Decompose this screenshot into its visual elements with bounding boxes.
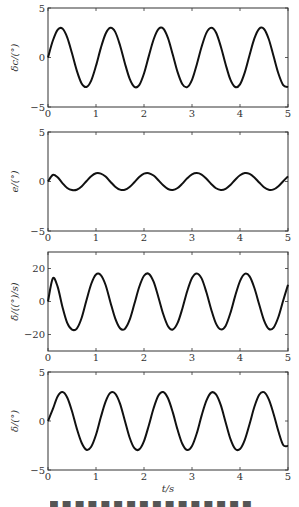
x-axis-label: t/s (162, 483, 175, 494)
x-tick-label: 3 (189, 108, 195, 119)
x-tick-label: 5 (285, 471, 291, 482)
axes-frame (48, 132, 288, 231)
y-axis-label: δ̇/((°)/s) (9, 282, 20, 321)
y-axis-label: δ/(°) (9, 410, 20, 432)
x-tick-label: 4 (237, 471, 243, 482)
x-tick-label: 1 (93, 352, 99, 363)
x-tick-label: 0 (45, 471, 51, 482)
y-tick-label: 0 (39, 296, 45, 307)
y-tick-label: 0 (39, 176, 45, 187)
y-tick-label: 20 (32, 263, 45, 274)
x-tick-label: 5 (285, 232, 291, 243)
y-tick-label: 5 (39, 3, 45, 14)
x-tick-label: 2 (141, 108, 147, 119)
figure: 01234550−5δc/(°)01234550−5e/(°)012345200… (0, 0, 299, 507)
series-line-delta_c (48, 28, 288, 88)
x-tick-label: 4 (237, 232, 243, 243)
axes-frame (48, 372, 288, 470)
x-tick-label: 2 (141, 352, 147, 363)
x-tick-label: 5 (285, 352, 291, 363)
y-tick-label: −5 (30, 226, 45, 237)
y-tick-label: 5 (39, 367, 45, 378)
x-tick-label: 2 (141, 471, 147, 482)
panel-3: 012345200−20δ̇/((°)/s) (9, 252, 291, 363)
x-tick-label: 0 (45, 108, 51, 119)
series-line-delta (48, 392, 288, 450)
x-tick-label: 3 (189, 352, 195, 363)
x-tick-label: 1 (93, 232, 99, 243)
panel-4: 01234550−5δ/(°) (9, 367, 291, 483)
axes-frame (48, 8, 288, 107)
y-tick-label: −5 (30, 465, 45, 476)
x-tick-label: 1 (93, 108, 99, 119)
x-tick-label: 4 (237, 352, 243, 363)
x-tick-label: 5 (285, 108, 291, 119)
x-tick-label: 0 (45, 352, 51, 363)
y-axis-label: δc/(°) (9, 44, 20, 72)
y-tick-label: −20 (24, 329, 45, 340)
axes-frame (48, 252, 288, 351)
panel-2: 01234550−5e/(°) (9, 127, 291, 244)
x-tick-label: 1 (93, 471, 99, 482)
x-tick-label: 4 (237, 108, 243, 119)
series-line-delta_dot (48, 273, 288, 330)
x-tick-label: 3 (189, 471, 195, 482)
series-line-e (48, 173, 288, 190)
x-tick-label: 0 (45, 232, 51, 243)
y-tick-label: 5 (39, 127, 45, 138)
x-tick-label: 2 (141, 232, 147, 243)
panel-1: 01234550−5δc/(°) (9, 3, 291, 120)
y-tick-label: 0 (39, 416, 45, 427)
y-axis-label: e/(°) (9, 170, 20, 192)
y-tick-label: 0 (39, 52, 45, 63)
figure-caption-cropped: ▇ ▇ ▇ ▇ ▇ ▇ ▇ ▇ ▇ ▇ ▇ ▇ ▇ ▇ ▇ ▇ ▇ ▇ (50, 500, 260, 507)
x-tick-label: 3 (189, 232, 195, 243)
y-tick-label: −5 (30, 102, 45, 113)
